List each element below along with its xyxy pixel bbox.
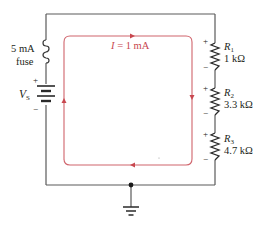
resistor-r1-icon — [211, 43, 219, 70]
source-subscript: S — [26, 94, 30, 102]
arrow-right-icon — [130, 34, 135, 39]
r2-value: 3.3 kΩ — [224, 100, 253, 111]
resistor-r3-icon — [211, 133, 219, 160]
arrow-down-icon — [190, 95, 195, 100]
r2-minus-sign: − — [203, 109, 208, 118]
ground-icon — [123, 207, 139, 215]
source-label: VS — [19, 89, 30, 102]
r2-plus-sign: + — [203, 84, 208, 93]
resistor-r2-icon — [211, 88, 219, 115]
r1-value: 1 kΩ — [224, 54, 245, 65]
fuse-rating-label: 5 mA — [11, 44, 35, 55]
fuse-label: fuse — [16, 57, 34, 68]
source-plus-sign: + — [33, 76, 38, 85]
current-value: = 1 mA — [115, 40, 150, 51]
arrow-left-icon — [130, 163, 135, 168]
current-loop — [64, 36, 192, 165]
r1-plus-sign: + — [203, 37, 208, 46]
r1-minus-sign: − — [203, 63, 208, 72]
source-symbol: V — [19, 88, 26, 100]
series-circuit-diagram — [0, 0, 264, 229]
current-arrows — [62, 34, 195, 168]
r3-minus-sign: − — [203, 155, 208, 164]
battery-icon — [37, 86, 55, 101]
arrow-up-icon — [62, 98, 67, 103]
fuse-icon — [43, 40, 49, 63]
current-label: I = 1 mA — [111, 41, 149, 52]
r3-value: 4.7 kΩ — [224, 146, 253, 157]
source-minus-sign: − — [33, 105, 38, 114]
ground-node-dot — [129, 183, 134, 188]
r3-plus-sign: + — [203, 130, 208, 139]
stray-dot — [158, 157, 159, 158]
